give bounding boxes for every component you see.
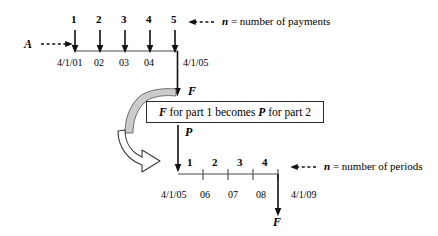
bottom-date-4: 08 <box>256 190 266 200</box>
top-payment-arrows <box>75 30 175 49</box>
callout-text: F for part 1 becomes P for part 2 <box>159 106 311 118</box>
callout-symbol-f: F <box>159 106 167 118</box>
payments-annotation-text: = number of payments <box>228 15 330 27</box>
top-date-5: 4/1/05 <box>183 58 209 68</box>
top-date-4: 04 <box>144 58 154 68</box>
bottom-date-1: 4/1/05 <box>161 190 187 200</box>
payment-number-5: 5 <box>171 14 177 25</box>
top-date-1: 4/1/01 <box>57 58 83 68</box>
periods-annotation: n = number of periods <box>324 161 422 172</box>
present-value-label: P <box>185 126 192 138</box>
payments-annotation: n = number of payments <box>222 16 330 27</box>
payment-number-4: 4 <box>146 14 152 25</box>
top-date-2: 02 <box>94 58 104 68</box>
top-date-3: 03 <box>119 58 129 68</box>
bottom-date-3: 07 <box>228 190 238 200</box>
payment-number-2: 2 <box>96 14 102 25</box>
bottom-timeline-axis <box>178 169 278 180</box>
callout-mid-text: for part 1 becomes <box>167 106 259 118</box>
bottom-date-2: 06 <box>200 190 210 200</box>
top-future-value-label: F <box>188 85 196 97</box>
bottom-future-value-label: F <box>273 216 281 228</box>
callout-tail-text: for part 2 <box>265 106 311 118</box>
period-number-3: 3 <box>237 157 243 168</box>
bottom-date-5: 4/1/09 <box>291 190 317 200</box>
series-a-label: A <box>24 38 32 50</box>
period-number-1: 1 <box>187 157 193 168</box>
period-number-2: 2 <box>212 157 218 168</box>
payment-number-1: 1 <box>71 14 77 25</box>
payment-number-3: 3 <box>121 14 127 25</box>
callout-box: F for part 1 becomes P for part 2 <box>146 101 324 123</box>
period-number-4: 4 <box>262 157 268 168</box>
diagram-canvas: A 1 2 3 4 5 4/1/01 02 03 04 4/1/05 n = n… <box>0 0 438 236</box>
periods-annotation-text: = number of periods <box>330 160 422 172</box>
